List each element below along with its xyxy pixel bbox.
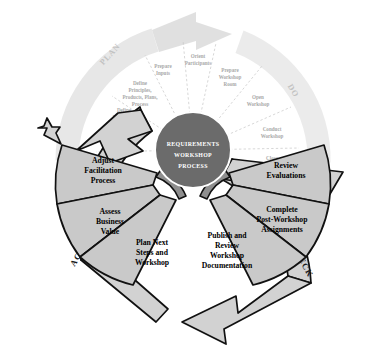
do-band [236,31,331,163]
plan-step-2-line-1: Define [133,80,148,86]
plan-step-4: Orient Participants [185,53,212,66]
plan-step-3: Prepare Inputs [154,63,172,76]
plan-arrowhead-icon [152,12,232,52]
act-step-3-line-1: Plan Next [136,238,169,247]
act-step-3-line-2: Steps and [136,248,169,257]
act-step-1-line-1: Adjust [92,156,115,165]
do-step-1-line-2: Workshop [219,74,242,80]
act-step-1-line-3: Process [91,176,116,185]
act-step-3-line-3: Workshop [135,258,169,267]
do-step-1-line-3: Room [223,81,237,87]
act-step-3: Plan Next Steps and Workshop [135,238,169,267]
plan-step-4-line-1: Orient [191,53,206,59]
do-step-1: Prepare Workshop Room [219,67,242,87]
do-step-2-line-1: Open [252,94,264,100]
hub-line-1: REQUIREMENTS [167,141,220,147]
plan-step-3-line-2: Inputs [156,70,170,76]
plan-step-4-line-2: Participants [185,60,212,66]
act-step-2-line-2: Business [96,217,124,226]
do-step-1-line-1: Prepare [221,67,239,73]
check-step-1-line-2: Evaluations [267,171,306,180]
plan-step-2-line-2: Principles, [128,87,152,93]
do-step-2: Open Workshop [247,94,270,107]
plan-step-3-line-1: Prepare [154,63,172,69]
act-outer-arrow [38,118,61,144]
hub-line-2: WORKSHOP [174,152,212,158]
plan-step-2: Define Principles, Products, Plans, Proc… [122,80,158,107]
check-step-2-line-3: Assignments [261,225,302,234]
do-step-3: Conduct Workshop [261,126,284,139]
check-step-1-line-1: Review [274,161,298,170]
check-step-3-line-2: Review [215,241,239,250]
do-step-3-line-1: Conduct [263,126,282,132]
check-arrowhead-icon [182,276,311,344]
check-step-3-line-3: Workshop [210,251,244,260]
pdca-requirements-workshop-diagram: PLAN DO Define Workshop Purpose and Part… [0,0,387,350]
check-step-3-line-1: Publish and [207,231,247,240]
center-hub: REQUIREMENTS WORKSHOP PROCESS [155,112,231,188]
hub-line-3: PROCESS [178,163,208,169]
do-step-2-line-2: Workshop [247,101,270,107]
hub-circle [155,112,231,188]
act-step-2-line-1: Assess [100,207,121,216]
check-step-2-line-2: Post-Workshop [257,215,308,224]
do-quadrant: DO [236,31,331,163]
plan-step-2-line-3: Products, Plans, [122,94,158,100]
act-step-2-line-3: Value [101,227,120,236]
check-step-2-line-1: Complete [266,205,298,214]
pdca-wheel-svg: PLAN DO Define Workshop Purpose and Part… [0,0,387,350]
do-step-3-line-2: Workshop [261,133,284,139]
act-step-1-line-2: Facilitation [84,166,122,175]
plan-step-2-line-4: Process [132,101,148,107]
check-step-3-line-4: Documentation [202,261,253,270]
